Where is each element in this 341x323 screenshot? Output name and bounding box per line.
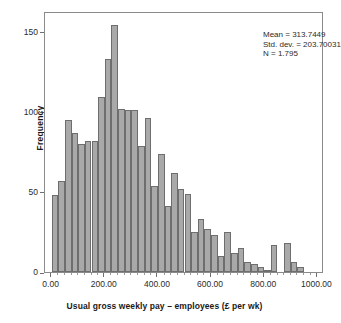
x-axis-minor-tick bbox=[150, 273, 151, 275]
x-axis-minor-tick bbox=[190, 273, 191, 275]
histogram-bar bbox=[65, 120, 72, 272]
histogram-bar bbox=[224, 232, 231, 272]
histogram-bar bbox=[85, 141, 92, 272]
x-axis-minor-tick bbox=[130, 273, 131, 275]
x-tick-mark bbox=[210, 273, 211, 277]
histogram-bar bbox=[185, 194, 192, 272]
histogram-bar bbox=[271, 245, 278, 272]
histogram-bar bbox=[52, 195, 59, 272]
histogram-bar bbox=[165, 206, 172, 272]
histogram-bar bbox=[198, 219, 205, 272]
x-axis-minor-tick bbox=[110, 273, 111, 275]
x-axis-minor-tick bbox=[250, 273, 251, 275]
x-tick-label: 200.00 bbox=[80, 279, 128, 289]
x-axis-minor-tick bbox=[97, 273, 98, 275]
x-axis-minor-tick bbox=[170, 273, 171, 275]
histogram-bar bbox=[284, 243, 291, 272]
x-tick-label: 600.00 bbox=[186, 279, 234, 289]
histogram-bar bbox=[105, 59, 112, 272]
histogram-bar bbox=[258, 267, 265, 272]
histogram-bar bbox=[92, 141, 99, 272]
stat-n: N = 1.795 bbox=[263, 49, 341, 59]
histogram-bar bbox=[238, 248, 245, 272]
plot-frame: Mean = 313.7449 Std. dev. = 203.70031 N … bbox=[44, 12, 323, 273]
y-tick-label: 0 bbox=[33, 267, 38, 278]
histogram-bar bbox=[131, 110, 138, 272]
x-axis-minor-tick bbox=[137, 273, 138, 275]
histogram-bar bbox=[204, 229, 211, 272]
x-axis-minor-tick bbox=[223, 273, 224, 275]
histogram-bar bbox=[125, 110, 132, 272]
histogram-bar bbox=[98, 97, 105, 272]
x-axis-minor-tick bbox=[237, 273, 238, 275]
x-axis-minor-tick bbox=[203, 273, 204, 275]
x-axis-minor-tick bbox=[270, 273, 271, 275]
x-axis-title: Usual gross weekly pay – employees (£ pe… bbox=[0, 301, 329, 311]
x-axis-minor-tick bbox=[283, 273, 284, 275]
x-axis: 0.00200.00400.00600.00800.001000.00 bbox=[44, 273, 323, 293]
histogram-bar bbox=[158, 154, 165, 272]
x-axis-minor-tick bbox=[217, 273, 218, 275]
x-tick-label: 800.00 bbox=[239, 279, 287, 289]
x-axis-minor-tick bbox=[303, 273, 304, 275]
x-axis-minor-tick bbox=[71, 273, 72, 275]
x-axis-minor-tick bbox=[277, 273, 278, 275]
histogram-bar bbox=[72, 133, 79, 272]
x-tick-label: 400.00 bbox=[133, 279, 181, 289]
x-axis-minor-tick bbox=[164, 273, 165, 275]
x-axis-minor-tick bbox=[177, 273, 178, 275]
statistics-annotation: Mean = 313.7449 Std. dev. = 203.70031 N … bbox=[263, 30, 341, 59]
x-axis-minor-tick bbox=[77, 273, 78, 275]
x-axis-minor-tick bbox=[243, 273, 244, 275]
x-tick-mark bbox=[103, 273, 104, 277]
histogram-bar bbox=[297, 267, 304, 272]
x-tick-mark bbox=[50, 273, 51, 277]
x-axis-minor-tick bbox=[124, 273, 125, 275]
histogram-bar bbox=[191, 232, 198, 272]
histogram-bar bbox=[251, 264, 258, 272]
x-axis-minor-tick bbox=[64, 273, 65, 275]
histogram-bar bbox=[218, 256, 225, 272]
histogram-bar bbox=[231, 253, 238, 272]
x-axis-minor-tick bbox=[117, 273, 118, 275]
histogram-bar bbox=[211, 235, 218, 272]
histogram-bar bbox=[291, 262, 298, 272]
x-axis-minor-tick bbox=[57, 273, 58, 275]
x-axis-minor-tick bbox=[257, 273, 258, 275]
histogram-bar bbox=[145, 118, 152, 272]
x-tick-label: 0.00 bbox=[27, 279, 75, 289]
x-tick-mark bbox=[156, 273, 157, 277]
x-axis-minor-tick bbox=[296, 273, 297, 275]
x-tick-mark bbox=[263, 273, 264, 277]
x-axis-minor-tick bbox=[144, 273, 145, 275]
histogram-bar bbox=[244, 262, 251, 272]
x-axis-minor-tick bbox=[84, 273, 85, 275]
x-axis-minor-tick bbox=[230, 273, 231, 275]
stat-mean: Mean = 313.7449 bbox=[263, 30, 341, 40]
histogram-bar bbox=[118, 109, 125, 272]
x-axis-minor-tick bbox=[290, 273, 291, 275]
x-axis-minor-tick bbox=[310, 273, 311, 275]
histogram-bar bbox=[138, 146, 145, 272]
histogram-bar bbox=[178, 189, 185, 272]
histogram-bar bbox=[111, 25, 118, 272]
x-axis-minor-tick bbox=[184, 273, 185, 275]
x-tick-label: 1000.00 bbox=[292, 279, 340, 289]
x-axis-minor-tick bbox=[91, 273, 92, 275]
y-tick-label: 150 bbox=[24, 27, 38, 38]
histogram-bar bbox=[151, 186, 158, 272]
histogram-bar bbox=[264, 270, 271, 272]
x-tick-mark bbox=[316, 273, 317, 277]
x-axis-minor-tick bbox=[197, 273, 198, 275]
histogram-bar bbox=[58, 181, 65, 272]
stat-std-dev: Std. dev. = 203.70031 bbox=[263, 40, 341, 50]
y-tick-label: 50 bbox=[29, 187, 38, 198]
histogram-bar bbox=[171, 173, 178, 272]
histogram-bar bbox=[78, 144, 85, 272]
